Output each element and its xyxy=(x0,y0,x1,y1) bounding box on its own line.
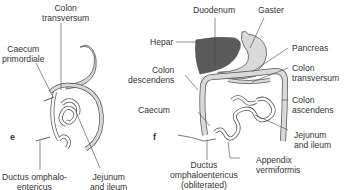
panel-e-drawing xyxy=(36,45,102,149)
label-line: Appendix xyxy=(256,155,300,165)
label-line: transversum xyxy=(292,73,339,83)
label-caecum-primordiale: Caecum primordiale xyxy=(2,44,45,64)
label-line: (obliterated) xyxy=(170,180,238,190)
label-line: primordiale xyxy=(2,54,45,64)
label-line: transversum xyxy=(42,13,89,23)
label-line: vermiformis xyxy=(256,165,300,175)
label-colon-ascendens: Colon ascendens xyxy=(292,95,334,115)
label-line: ascendens xyxy=(292,105,334,115)
panel-letter-e: e xyxy=(10,132,15,142)
label-line: Ductus omphalo- xyxy=(2,172,67,182)
label-jejunum-ileum-f: Jejunum and ileum xyxy=(294,130,331,150)
label-hepar: Hepar xyxy=(150,37,173,47)
label-jejunum-ileum-e: Jejunum and ileum xyxy=(90,172,127,190)
label-line: Jejunum xyxy=(294,130,331,140)
label-ductus-omphaloentericus-f: Ductus omphaloentericus (obliterated) xyxy=(170,160,238,190)
label-colon-transversum-f: Colon transversum xyxy=(292,63,339,83)
label-line: and ileum xyxy=(294,140,331,150)
label-line: Ductus xyxy=(170,160,238,170)
label-line: descendens xyxy=(128,75,174,85)
label-line: Colon xyxy=(292,63,339,73)
label-line: entericus xyxy=(2,182,67,190)
label-pancreas: Pancreas xyxy=(292,43,328,53)
label-gaster: Gaster xyxy=(258,5,284,15)
liver-shape xyxy=(196,37,241,74)
label-ductus-omphaloentericus-e: Ductus omphalo- entericus xyxy=(2,172,67,190)
panel-letter-f: f xyxy=(153,132,156,142)
label-duodenum: Duodenum xyxy=(193,5,235,15)
label-line: Caecum xyxy=(2,44,45,54)
label-line: Colon xyxy=(42,3,89,13)
label-line: Colon xyxy=(292,95,334,105)
label-line: and ileum xyxy=(90,182,127,190)
label-line: Jejunum xyxy=(90,172,127,182)
label-caecum: Caecum xyxy=(138,105,170,115)
label-colon-transversum-e: Colon transversum xyxy=(42,3,89,23)
panel-f-drawing xyxy=(178,31,285,141)
label-appendix-vermiformis: Appendix vermiformis xyxy=(256,155,300,175)
label-line: Colon xyxy=(128,65,174,75)
label-colon-descendens: Colon descendens xyxy=(128,65,174,85)
label-line: omphaloentericus xyxy=(170,170,238,180)
